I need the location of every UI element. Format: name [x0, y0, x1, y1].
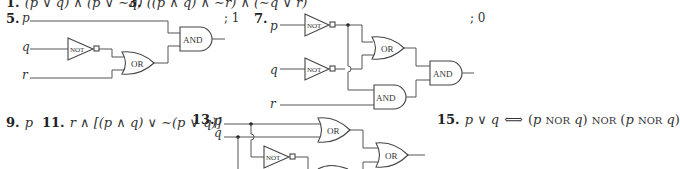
item-13-circuit: NOT OR OR	[224, 118, 425, 169]
item-5-or-gate: OR	[122, 52, 154, 75]
item-7-or-gate: OR	[372, 37, 404, 60]
item-5-and-gate: AND	[180, 27, 212, 51]
item-13-or-gate-top: OR	[318, 118, 350, 143]
svg-text:NOT: NOT	[307, 22, 322, 30]
svg-text:AND: AND	[433, 69, 453, 79]
item-13-not-gate: NOT	[264, 146, 295, 168]
item-7-not-gate-q: NOT	[305, 58, 335, 80]
svg-text:AND: AND	[376, 93, 396, 103]
svg-text:NOT: NOT	[70, 46, 85, 54]
svg-text:OR: OR	[381, 44, 394, 54]
item-7-circuit: NOT NOT OR AND AND	[280, 14, 474, 109]
svg-text:NOT: NOT	[307, 66, 322, 74]
svg-text:OR: OR	[327, 126, 340, 136]
svg-text:AND: AND	[183, 35, 203, 45]
item-7-not-gate-p: NOT	[305, 14, 335, 36]
item-13-or-gate-final: OR	[376, 143, 408, 168]
item-7-and-gate-lower: AND	[374, 85, 406, 109]
svg-text:OR: OR	[385, 151, 398, 161]
svg-text:OR: OR	[131, 59, 144, 69]
item-5-circuit: NOT OR AND	[30, 21, 225, 78]
item-7-and-gate-final: AND	[430, 61, 462, 85]
item-5-not-gate: NOT	[68, 38, 99, 60]
svg-text:NOT: NOT	[266, 154, 281, 162]
